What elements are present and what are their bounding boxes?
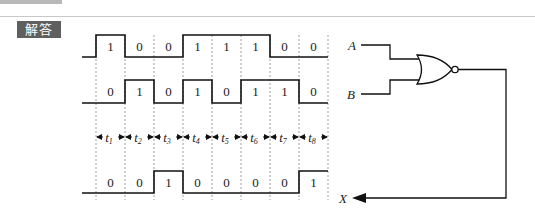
svg-text:0: 0 — [281, 39, 288, 54]
svg-text:1: 1 — [165, 175, 172, 190]
waveform-x — [82, 171, 328, 193]
output-arrow-icon — [352, 193, 366, 203]
svg-text:1: 1 — [136, 84, 143, 99]
svg-text:0: 0 — [223, 175, 230, 190]
svg-text:0: 0 — [310, 84, 317, 99]
svg-text:0: 0 — [310, 39, 317, 54]
svg-text:0: 0 — [223, 84, 230, 99]
svg-text:t4: t4 — [192, 130, 200, 146]
svg-text:0: 0 — [107, 84, 114, 99]
waveform-b — [82, 80, 328, 103]
svg-text:0: 0 — [107, 175, 114, 190]
svg-text:t6: t6 — [250, 130, 258, 146]
svg-text:1: 1 — [310, 175, 317, 190]
svg-text:0: 0 — [165, 39, 172, 54]
svg-text:1: 1 — [194, 39, 201, 54]
svg-text:t2: t2 — [134, 130, 142, 146]
svg-text:t5: t5 — [221, 130, 229, 146]
circuit-labels: A B X — [338, 38, 356, 206]
nor-gate-circuit — [361, 45, 506, 198]
interval-gridlines — [96, 35, 328, 200]
nor-gate-body — [417, 55, 452, 84]
svg-text:t1: t1 — [105, 130, 113, 146]
svg-text:t7: t7 — [279, 130, 288, 146]
waveform-a — [82, 35, 328, 57]
svg-text:1: 1 — [194, 84, 201, 99]
svg-text:t3: t3 — [163, 130, 171, 146]
svg-text:0: 0 — [252, 175, 259, 190]
svg-text:0: 0 — [136, 39, 143, 54]
svg-text:0: 0 — [194, 175, 201, 190]
svg-text:1: 1 — [252, 39, 259, 54]
svg-text:X: X — [338, 191, 348, 206]
svg-text:1: 1 — [252, 84, 259, 99]
interval-labels: t1 t2 t3 t4 t5 t6 t7 t8 — [105, 130, 316, 146]
timing-diagram: 1 0 0 1 1 1 0 0 0 1 0 1 0 1 1 0 0 0 1 0 … — [0, 0, 535, 211]
svg-text:1: 1 — [223, 39, 230, 54]
svg-text:0: 0 — [136, 175, 143, 190]
svg-text:t8: t8 — [308, 130, 316, 146]
svg-text:B: B — [347, 87, 355, 102]
svg-text:A: A — [347, 38, 356, 53]
svg-text:0: 0 — [281, 175, 288, 190]
svg-text:1: 1 — [281, 84, 288, 99]
nor-bubble — [452, 66, 458, 72]
svg-text:1: 1 — [107, 39, 114, 54]
svg-text:0: 0 — [165, 84, 172, 99]
